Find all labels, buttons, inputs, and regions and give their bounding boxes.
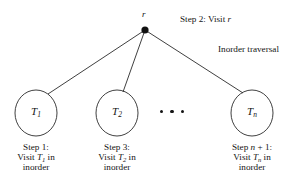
subtree-2-caption-line-3: inorder <box>71 163 163 173</box>
edge-group <box>48 30 243 94</box>
annotation-traversal-title: Inorder traversal <box>218 45 279 55</box>
root-node-label: r <box>142 10 146 20</box>
subtree-2-node-label: T2 <box>81 106 153 119</box>
subtree-2-caption-line-2-suffix: in <box>126 152 135 162</box>
subtree-1-node-label: T1 <box>0 106 72 119</box>
subtree-n-caption: Step n + 1: Visit Tn in inorder <box>206 143 298 173</box>
ellipsis-dot-3 <box>181 110 184 113</box>
annotation-step-2-prefix: Step 2: Visit <box>180 14 228 24</box>
subtree-1-node-label-sub: 1 <box>37 110 41 119</box>
edge-root-to-subtree-2 <box>123 30 145 92</box>
subtree-2-node-label-sub: 2 <box>118 110 122 119</box>
annotation-step-2: Step 2: Visit r <box>180 15 231 25</box>
subtree-1-caption-line-2-prefix: Visit <box>17 152 37 162</box>
subtree-1-caption: Step 1: Visit T1 in inorder <box>0 143 82 173</box>
root-node-dot <box>141 26 148 33</box>
subtree-2-caption-line-1-prefix: Step 3: <box>104 142 130 152</box>
ellipsis-dot-1 <box>160 110 163 113</box>
subtree-n-caption-line-2-suffix: in <box>261 152 270 162</box>
edge-root-to-subtree-n <box>145 30 243 93</box>
subtree-n-caption-line-3: inorder <box>206 163 298 173</box>
subtree-n-caption-line-1-suffix: + 1: <box>255 142 272 152</box>
subtree-2-caption: Step 3: Visit T2 in inorder <box>71 143 163 173</box>
subtree-1-caption-line-1-prefix: Step 1: <box>23 142 49 152</box>
subtree-1-caption-line-3: inorder <box>0 163 82 173</box>
subtree-n-caption-line-1-prefix: Step <box>232 142 251 152</box>
subtree-n-node-label: Tn <box>216 106 288 119</box>
ellipsis-between-subtrees <box>160 110 184 113</box>
annotation-step-2-italic: r <box>228 14 232 24</box>
subtree-2-caption-line-2-prefix: Visit <box>98 152 118 162</box>
subtree-1-caption-line-2-suffix: in <box>45 152 54 162</box>
ellipsis-dot-2 <box>170 110 173 113</box>
subtree-n-caption-line-2-prefix: Visit <box>233 152 253 162</box>
edge-root-to-subtree-1 <box>48 30 145 94</box>
subtree-n-node-label-sub: n <box>253 110 257 119</box>
inorder-traversal-diagram: r Step 2: Visit r Inorder traversal T1 T… <box>0 0 302 192</box>
